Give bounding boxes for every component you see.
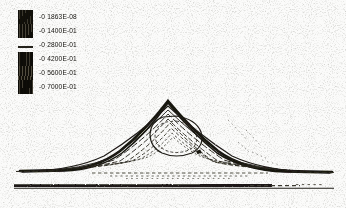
near-wall-contours xyxy=(92,173,268,179)
legend-row: -0 5600E-01 xyxy=(18,66,77,80)
legend-swatch-dark-hatch xyxy=(18,80,33,94)
legend-label: -0 2800E-01 xyxy=(39,41,77,50)
legend-row: -0 2800E-01 xyxy=(18,38,77,52)
contour-ring-1 xyxy=(30,106,308,172)
contour-level-legend: -0 1863E-08 -0 1400E-01 -0 2800E-01 -0 4… xyxy=(18,6,118,96)
legend-swatch-dark-hatch xyxy=(18,66,33,80)
legend-label: -0 7000E-01 xyxy=(39,83,77,92)
legend-swatch-dark-hatch xyxy=(18,24,33,38)
legend-swatch-dark-hatch xyxy=(18,10,33,24)
legend-row: -0 7000E-01 xyxy=(18,80,77,94)
legend-swatch-light-line xyxy=(18,38,33,52)
legend-label: -0 4200E-01 xyxy=(39,55,77,64)
legend-row: -0 1863E-08 xyxy=(18,10,77,24)
contour-ring-2 xyxy=(52,114,290,170)
legend-row: -0 4200E-01 xyxy=(18,52,77,66)
legend-label: -0 5600E-01 xyxy=(39,69,77,78)
legend-label: -0 1400E-01 xyxy=(39,27,77,36)
lower-wall xyxy=(14,185,334,189)
legend-swatch-dark-hatch xyxy=(18,52,33,66)
legend-row: -0 1400E-01 xyxy=(18,24,77,38)
contour-figure: -0 1863E-08 -0 1400E-01 -0 2800E-01 -0 4… xyxy=(0,0,346,208)
legend-label: -0 1863E-08 xyxy=(39,13,77,22)
